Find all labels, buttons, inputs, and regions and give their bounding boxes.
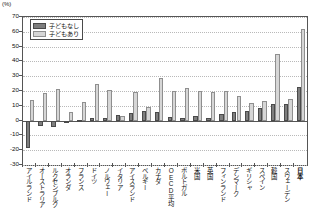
bar-子どもあり-フランス — [82, 102, 86, 121]
x-axis-tick-mark — [164, 163, 165, 167]
x-axis-tick-mark — [177, 163, 178, 167]
x-axis-label-イタリア: イタリア — [116, 167, 122, 190]
y-axis-tick-mark — [19, 120, 22, 121]
x-axis-tick-mark — [151, 163, 152, 167]
x-axis-tick-mark — [190, 163, 191, 167]
y-axis-tick-mark — [19, 16, 22, 17]
x-axis-label-スウェーデン: スウェーデン — [283, 167, 289, 201]
x-axis-tick-mark — [203, 163, 204, 167]
x-axis-tick-mark — [74, 163, 75, 167]
x-axis-label-ポルトガル: ポルトガル — [180, 167, 186, 196]
y-axis-tick-label: -30 — [0, 161, 19, 167]
bar-子どもなし-オーストラリア — [38, 121, 42, 126]
bar-子どもあり-オーストラリア — [43, 93, 47, 120]
y-axis-tick-mark — [19, 75, 22, 76]
bar-子どもあり-ポルトガル — [185, 88, 189, 121]
y-axis-tick-label: 60 — [0, 28, 19, 34]
chart-root: (%) -30-20-10010203040506070 子どもなし 子どもあり… — [0, 0, 313, 217]
x-axis-label-ルクセンブルク: ルクセンブルク — [51, 167, 57, 207]
y-axis-tick-mark — [19, 46, 22, 47]
chart-legend: 子どもなし 子どもあり — [30, 19, 83, 40]
x-axis-tick-mark — [99, 163, 100, 167]
x-axis-label-スペイン: スペイン — [258, 167, 264, 190]
x-axis-tick-mark — [138, 163, 139, 167]
x-axis-label-韓国: 韓国 — [271, 167, 277, 178]
legend-item-no-children: 子どもなし — [33, 22, 79, 30]
x-axis-tick-mark — [22, 163, 23, 167]
bar-子どもあり-韓国 — [275, 54, 279, 121]
bar-子どもあり-カナダ — [159, 78, 163, 121]
x-axis-tick-mark — [229, 163, 230, 167]
legend-item-with-children: 子どもあり — [33, 30, 79, 38]
bar-子どもあり-英国 — [211, 92, 215, 120]
legend-swatch-no-children — [33, 23, 46, 29]
x-axis-tick-mark — [61, 163, 62, 167]
bar-子どもなし-アイルランド — [26, 121, 30, 148]
x-axis-tick-mark — [35, 163, 36, 167]
x-axis-label-フィンランド: フィンランド — [219, 167, 225, 201]
y-axis-tick-label: 10 — [0, 102, 19, 108]
x-axis-tick-mark — [267, 163, 268, 167]
bar-子どもあり-アイスランド — [133, 92, 137, 121]
bar-子どもあり-オランダ — [69, 112, 73, 121]
gridline — [23, 165, 307, 166]
legend-swatch-with-children — [33, 31, 46, 37]
y-axis-tick-label: 50 — [0, 43, 19, 49]
x-axis-label-アイルランド: アイルランド — [25, 167, 31, 201]
y-axis-tick-label: 40 — [0, 57, 19, 63]
bar-子どもあり-デンマーク — [237, 96, 241, 120]
bar-子どもあり-米国 — [198, 91, 202, 121]
y-axis-unit-label: (%) — [2, 1, 11, 7]
bar-子どもあり-日本 — [301, 29, 305, 121]
x-axis-label-フランス: フランス — [77, 167, 83, 190]
x-axis-tick-mark — [293, 163, 294, 167]
x-axis-tick-mark — [48, 163, 49, 167]
bar-子どもあり-ノルウェー — [107, 90, 111, 121]
legend-label-no-children: 子どもなし — [49, 22, 79, 29]
x-axis-label-カナダ: カナダ — [154, 167, 160, 184]
y-axis-tick-label: 20 — [0, 87, 19, 93]
y-axis-tick-label: 0 — [0, 117, 19, 123]
x-axis-label-オランダ: オランダ — [64, 167, 70, 190]
y-axis-tick-mark — [19, 90, 22, 91]
x-axis-label-英国: 英国 — [206, 167, 212, 178]
x-axis-label-オーストラリア: オーストラリア — [38, 167, 44, 207]
y-axis-tick-mark — [19, 134, 22, 135]
bar-子どもあり-スウェーデン — [288, 99, 292, 120]
bar-子どもあり-ドイツ — [95, 84, 99, 121]
x-axis-tick-mark — [112, 163, 113, 167]
x-axis-label-デンマーク: デンマーク — [232, 167, 238, 196]
bar-子どもなし-ルクセンブルク — [51, 121, 55, 127]
bar-子どもあり-ベルギー — [146, 107, 150, 121]
bar-子どもあり-OECD平均 — [172, 91, 176, 121]
y-axis-tick-mark — [19, 60, 22, 61]
x-axis-label-日本: 日本 — [296, 167, 302, 178]
y-axis-tick-label: -10 — [0, 131, 19, 137]
bar-子どもなし-オランダ — [64, 121, 68, 123]
bar-子どもあり-ルクセンブルク — [56, 89, 60, 121]
x-axis-label-アイスランド: アイスランド — [129, 167, 135, 201]
x-axis-tick-mark — [241, 163, 242, 167]
x-axis-label-ベルギー: ベルギー — [141, 167, 147, 190]
legend-label-with-children: 子どもあり — [49, 30, 79, 37]
y-axis-tick-mark — [19, 149, 22, 150]
x-axis-label-ギリシャ: ギリシャ — [245, 167, 251, 190]
x-axis-label-ドイツ: ドイツ — [90, 167, 96, 184]
x-axis-label-米国: 米国 — [193, 167, 199, 178]
bar-子どもあり-アイルランド — [30, 100, 34, 121]
x-axis-tick-mark — [216, 163, 217, 167]
bar-子どもあり-ギリシャ — [249, 103, 253, 121]
x-axis-tick-mark — [125, 163, 126, 167]
x-axis-label-ノルウェー: ノルウェー — [103, 167, 109, 196]
x-axis-tick-mark — [254, 163, 255, 167]
y-axis-tick-label: -20 — [0, 146, 19, 152]
y-axis-tick-label: 70 — [0, 13, 19, 19]
bar-子どもあり-イタリア — [120, 116, 124, 120]
bar-子どもあり-スペイン — [262, 101, 266, 121]
y-axis-tick-mark — [19, 105, 22, 106]
x-axis-tick-mark — [87, 163, 88, 167]
x-axis-labels: アイルランドオーストラリアルクセンブルクオランダフランスドイツノルウェーイタリア… — [22, 167, 308, 217]
x-axis-tick-mark — [280, 163, 281, 167]
y-axis-tick-label: 30 — [0, 72, 19, 78]
y-axis-tick-mark — [19, 31, 22, 32]
